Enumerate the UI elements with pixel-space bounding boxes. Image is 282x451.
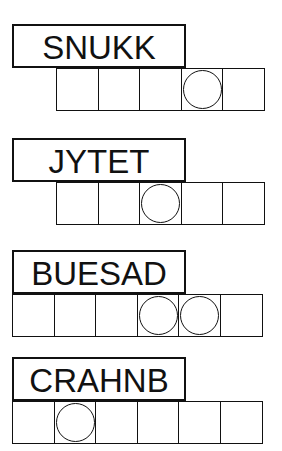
scrambled-word: SNUKK	[42, 29, 156, 64]
scrambled-word-box: BUESAD	[12, 250, 186, 294]
answer-cell[interactable]	[56, 182, 99, 225]
answer-cell[interactable]	[95, 294, 138, 337]
answer-cells	[12, 401, 263, 444]
answer-cell[interactable]	[56, 68, 99, 111]
answer-cell[interactable]	[137, 401, 180, 444]
scrambled-word-box: CRAHNB	[12, 357, 186, 401]
answer-cell[interactable]	[220, 294, 263, 337]
answer-cell[interactable]	[54, 294, 97, 337]
answer-cell-circled[interactable]	[137, 294, 180, 337]
scrambled-word-box: SNUKK	[12, 24, 186, 68]
answer-cell[interactable]	[12, 401, 55, 444]
answer-cell-circled[interactable]	[178, 294, 221, 337]
scrambled-word: JYTET	[49, 143, 150, 178]
answer-cell-circled[interactable]	[139, 182, 182, 225]
answer-cell-circled[interactable]	[181, 68, 224, 111]
answer-cell[interactable]	[222, 68, 265, 111]
answer-cell[interactable]	[139, 68, 182, 111]
answer-cells	[56, 68, 265, 111]
answer-cell[interactable]	[95, 401, 138, 444]
answer-cell[interactable]	[220, 401, 263, 444]
answer-cell[interactable]	[181, 182, 224, 225]
scrambled-word: CRAHNB	[29, 362, 168, 397]
answer-cells	[12, 294, 263, 337]
answer-cell[interactable]	[98, 68, 141, 111]
answer-cells	[56, 182, 265, 225]
answer-cell[interactable]	[222, 182, 265, 225]
answer-cell[interactable]	[178, 401, 221, 444]
answer-cell[interactable]	[12, 294, 55, 337]
scrambled-word-box: JYTET	[12, 138, 186, 182]
scrambled-word: BUESAD	[31, 255, 167, 290]
answer-cell[interactable]	[98, 182, 141, 225]
answer-cell-circled[interactable]	[54, 401, 97, 444]
